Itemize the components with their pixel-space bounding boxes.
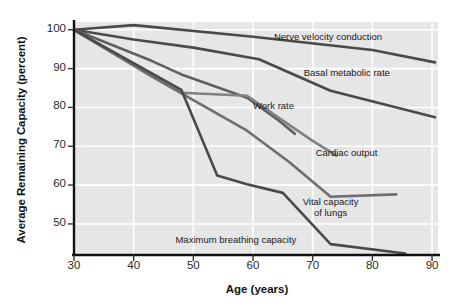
y-tick-label: 60 (40, 177, 66, 189)
y-axis-title: Average Remaining Capacity (percent) (15, 15, 27, 265)
series-label-1: Basal metabolic rate (304, 68, 390, 79)
y-tick-label: 90 (40, 61, 66, 73)
x-tick-label: 60 (233, 259, 273, 271)
x-tick-label: 80 (352, 259, 392, 271)
y-tick-label: 80 (40, 99, 66, 111)
x-tick-label: 70 (293, 259, 333, 271)
x-tick-label: 90 (412, 259, 452, 271)
series-label-2: Work rate (253, 101, 294, 112)
series-label-0: Nerve velocity conduction (274, 32, 382, 43)
x-tick-label: 50 (173, 259, 213, 271)
y-tick-label: 100 (40, 22, 66, 34)
series-label-line-1: of lungs (294, 208, 368, 219)
x-tick-label: 40 (114, 259, 154, 271)
series-label-3: Cardiac output (316, 148, 378, 159)
x-tick-label: 30 (54, 259, 94, 271)
series-label-5: Maximum breathing capacity (175, 235, 296, 246)
chart-figure: 506070809010030405060708090Average Remai… (0, 0, 452, 308)
y-tick-label: 50 (40, 216, 66, 228)
series-label-4: Vital capacityof lungs (294, 197, 368, 218)
x-axis-title: Age (years) (74, 283, 440, 295)
y-tick-label: 70 (40, 138, 66, 150)
